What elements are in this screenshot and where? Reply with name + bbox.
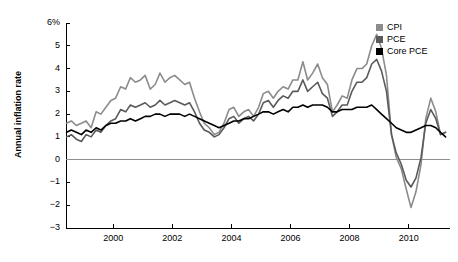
series-lines	[67, 34, 446, 207]
x-tick-label: 2006	[270, 233, 310, 243]
x-tick-label: 2008	[330, 233, 370, 243]
y-tick-label: 0	[20, 154, 60, 164]
legend-label: Core PCE	[387, 46, 428, 57]
y-tick-label: 6%	[20, 17, 60, 27]
y-tick-label: 5	[20, 40, 60, 50]
y-tick-label: 1	[20, 131, 60, 141]
legend-swatch-icon	[376, 24, 383, 31]
legend-label: CPI	[387, 22, 402, 33]
legend-item[interactable]: PCE	[376, 34, 428, 45]
y-tick-label: 4	[20, 63, 60, 73]
legend-swatch-icon	[376, 48, 383, 55]
chart-legend: CPIPCECore PCE	[376, 22, 428, 57]
y-tick-label: −2	[20, 199, 60, 209]
legend-item[interactable]: CPI	[376, 22, 428, 33]
legend-swatch-icon	[376, 36, 383, 43]
y-tick-label: −3	[20, 222, 60, 232]
y-tick-label: 3	[20, 85, 60, 95]
x-tick-label: 2004	[211, 233, 251, 243]
y-tick-label: −1	[20, 176, 60, 186]
tick-marks	[66, 23, 409, 228]
y-tick-label: 2	[20, 108, 60, 118]
x-tick-label: 2002	[152, 233, 192, 243]
legend-label: PCE	[387, 34, 406, 45]
x-tick-label: 2000	[93, 233, 133, 243]
x-tick-label: 2010	[389, 233, 429, 243]
legend-item[interactable]: Core PCE	[376, 46, 428, 57]
inflation-chart: Annual inflation rate −3−2−10123456% 200…	[0, 0, 458, 262]
